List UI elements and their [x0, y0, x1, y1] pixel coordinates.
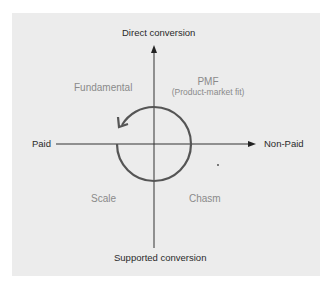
arrow-right-icon	[248, 141, 256, 147]
quadrant-chasm: Chasm	[189, 193, 221, 204]
speck-dot	[217, 164, 219, 166]
quadrant-fundamental: Fundamental	[74, 82, 132, 93]
quadrant-pmf-subtitle: (Product-market fit)	[166, 87, 250, 97]
axis-label-bottom: Supported conversion	[114, 252, 206, 263]
axis-label-left: Paid	[32, 138, 51, 149]
quadrant-pmf: PMF (Product-market fit)	[166, 76, 250, 97]
quadrant-pmf-title: PMF	[166, 76, 250, 87]
quadrant-scale: Scale	[91, 193, 116, 204]
axis-label-right: Non-Paid	[264, 138, 304, 149]
axis-label-top: Direct conversion	[122, 27, 195, 38]
arrow-up-icon	[151, 45, 157, 53]
